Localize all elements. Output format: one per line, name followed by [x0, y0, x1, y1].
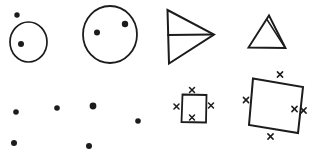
- figure-canvas: [0, 0, 311, 152]
- large-square-x-bottom: [268, 134, 273, 139]
- large-circle: [83, 6, 137, 63]
- large-square-x-right-outer: [301, 108, 306, 113]
- small-square-x-bottom: [190, 115, 195, 120]
- large-circle-dot-left: [94, 30, 100, 36]
- small-square-x-left: [174, 104, 179, 109]
- large-square: [249, 79, 303, 134]
- small-square: [182, 95, 207, 123]
- large-circle-dot-right: [122, 21, 128, 27]
- small-circle-outside-dot: [14, 12, 19, 17]
- small-square-x-top: [190, 88, 195, 93]
- scatter-dot-2: [54, 105, 60, 111]
- scatter-dot-1: [13, 109, 19, 115]
- right-arrow-triangle-midline: [168, 35, 213, 36]
- scatter-dot-6: [86, 143, 92, 149]
- right-arrow-triangle: [168, 10, 215, 64]
- scatter-dot-5: [11, 140, 17, 146]
- scatter-dot-4: [135, 118, 141, 124]
- small-circle: [10, 22, 47, 62]
- small-triangle-inner-line: [267, 20, 284, 47]
- large-square-x-right-inner: [292, 106, 297, 111]
- scatter-dot-3: [90, 103, 97, 110]
- figure: [0, 0, 311, 152]
- large-square-x-left: [243, 97, 248, 102]
- small-circle-inside-dot: [18, 41, 24, 47]
- large-square-x-top: [277, 72, 282, 77]
- small-square-x-right: [209, 103, 214, 108]
